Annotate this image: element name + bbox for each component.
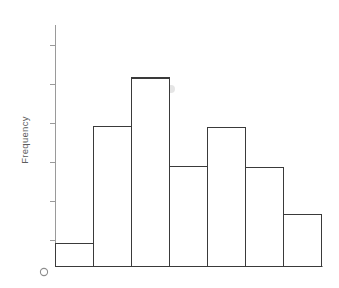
histogram-bar	[208, 127, 246, 266]
histogram-bar	[284, 214, 322, 266]
histogram-bar	[132, 78, 170, 266]
histogram-bar	[56, 243, 94, 266]
origin-circle-icon	[40, 268, 47, 275]
bar-series	[56, 78, 322, 266]
y-axis-title: Frequency	[19, 116, 30, 164]
histogram-canvas: Frequency	[0, 0, 339, 288]
histogram-bar	[246, 167, 284, 266]
histogram-figure: Frequency	[0, 0, 339, 288]
histogram-bar	[170, 166, 208, 266]
histogram-bar	[94, 126, 132, 266]
y-axis-ticks	[50, 46, 56, 241]
